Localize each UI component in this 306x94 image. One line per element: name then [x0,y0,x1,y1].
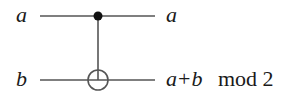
input-label-a: a [16,4,27,26]
mod-text: mod 2 [218,66,274,91]
input-label-b: b [16,68,27,90]
sum-operator: + [178,66,190,91]
sum-term-a: a [166,66,177,91]
output-label-sum: a+b mod 2 [166,68,274,90]
cnot-diagram: a b a a+b mod 2 [0,0,306,94]
control-dot-icon [94,12,103,21]
output-label-a: a [166,4,177,26]
sum-term-b: b [191,66,202,91]
